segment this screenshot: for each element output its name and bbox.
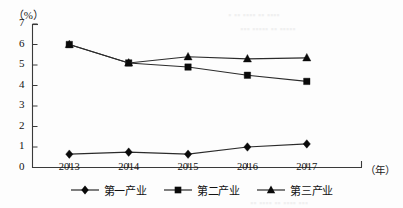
data-point-marker	[125, 148, 132, 157]
square-marker-icon	[163, 184, 193, 196]
x-tick-label: 2016	[224, 161, 270, 172]
y-tick-label: 2	[11, 119, 25, 131]
y-tick-label: 7	[11, 16, 25, 28]
y-tick-label: 0	[11, 160, 25, 172]
y-tick-label: 5	[11, 57, 25, 69]
legend-item: 第二产业	[163, 182, 240, 198]
data-point-marker	[304, 78, 310, 84]
axis-group	[32, 24, 362, 168]
diamond-marker-icon	[70, 184, 100, 196]
triangle-marker-icon	[256, 184, 286, 196]
chart-legend: 第一产业第二产业第三产业	[0, 182, 403, 198]
data-point-marker	[66, 150, 73, 159]
y-tick-marks	[33, 24, 38, 168]
legend-item: 第三产业	[256, 182, 333, 198]
legend-label: 第三产业	[290, 182, 333, 198]
data-series-group	[65, 40, 311, 158]
legend-label: 第一产业	[104, 182, 147, 198]
x-tick-label: 2015	[165, 161, 211, 172]
y-tick-label: 3	[11, 98, 25, 110]
data-point-marker	[244, 72, 250, 78]
legend-label: 第二产业	[197, 182, 240, 198]
data-point-marker	[244, 143, 251, 152]
x-tick-label: 2014	[106, 161, 152, 172]
data-point-marker	[303, 140, 310, 149]
data-point-marker	[303, 53, 311, 61]
x-tick-label: 2017	[284, 161, 330, 172]
line-chart: （%） （年） 01234567 20132014201520162017 第一…	[0, 0, 403, 208]
y-tick-label: 6	[11, 37, 25, 49]
data-point-marker	[184, 150, 191, 159]
series-line	[69, 45, 306, 82]
data-point-marker	[184, 52, 192, 60]
x-tick-label: 2013	[46, 161, 92, 172]
y-tick-label: 4	[11, 78, 25, 90]
plot-area	[0, 0, 403, 208]
y-tick-label: 1	[11, 139, 25, 151]
legend-item: 第一产业	[70, 182, 147, 198]
data-point-marker	[185, 64, 191, 70]
